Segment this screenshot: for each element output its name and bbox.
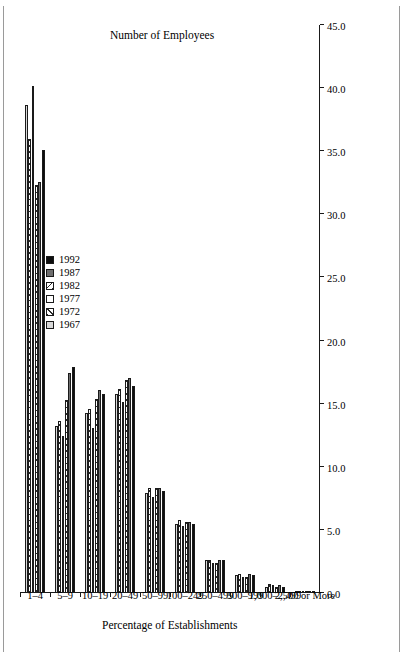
bar-1967-5-9 bbox=[54, 426, 57, 593]
bar-1982-250-499 bbox=[214, 563, 217, 593]
legend-item-1987: 1987 bbox=[46, 267, 80, 278]
value-tick-label: 5.0 bbox=[327, 526, 340, 537]
bar-1967-50-99 bbox=[144, 493, 147, 593]
category-tick-label: 50–99 bbox=[141, 590, 167, 601]
category-tick-label: 5–9 bbox=[57, 590, 73, 601]
bar-1967-10-19 bbox=[84, 413, 87, 593]
value-tick-label: 10.0 bbox=[327, 463, 345, 474]
value-tick bbox=[320, 150, 324, 151]
bar-1992-50-99 bbox=[161, 491, 164, 593]
category-tick bbox=[140, 593, 141, 597]
bar-1987-50-99 bbox=[158, 488, 161, 593]
page-border-right bbox=[399, 6, 400, 652]
legend-item-1992: 1992 bbox=[46, 254, 80, 265]
bar-1972-5-9 bbox=[58, 421, 61, 593]
bar-1977-20-49 bbox=[121, 402, 124, 593]
bar-group bbox=[204, 25, 224, 593]
bar-group bbox=[84, 25, 104, 593]
bar-1977-100-249 bbox=[181, 526, 184, 593]
legend-label: 1987 bbox=[59, 267, 80, 278]
bar-1972-10-19 bbox=[88, 409, 91, 593]
light-hatch-swatch bbox=[46, 282, 54, 290]
bar-1987-1-4 bbox=[38, 182, 41, 593]
value-tick-label: 15.0 bbox=[327, 400, 345, 411]
bar-group bbox=[144, 25, 164, 593]
category-tick-label: 20–49 bbox=[111, 590, 137, 601]
bar-1967-1-4 bbox=[24, 105, 27, 593]
bar-1992-20-49 bbox=[131, 386, 134, 593]
bar-group bbox=[174, 25, 194, 593]
legend-label: 1977 bbox=[59, 293, 80, 304]
bar-1967-250-499 bbox=[204, 560, 207, 593]
value-axis-line bbox=[319, 25, 320, 593]
legend-label: 1992 bbox=[59, 254, 80, 265]
figure-page: 0.05.010.015.020.025.030.035.040.045.0 1… bbox=[0, 0, 403, 658]
bar-1987-250-499 bbox=[218, 560, 221, 593]
bar-1987-100-249 bbox=[188, 522, 191, 593]
category-tick-label: 10–19 bbox=[81, 590, 107, 601]
bar-1982-100-249 bbox=[184, 522, 187, 593]
value-tick bbox=[320, 529, 324, 530]
bar-1987-10-19 bbox=[98, 390, 101, 593]
value-tick bbox=[320, 24, 324, 25]
bar-1982-1-4 bbox=[34, 185, 37, 593]
value-tick-label: 25.0 bbox=[327, 273, 345, 284]
value-tick bbox=[320, 276, 324, 277]
value-axis-title: Percentage of Establishments bbox=[102, 619, 237, 631]
category-tick bbox=[20, 593, 21, 597]
bar-1977-10-19 bbox=[91, 428, 94, 593]
legend-item-1967: 1967 bbox=[46, 319, 80, 330]
bar-group bbox=[264, 25, 284, 593]
bar-group bbox=[114, 25, 134, 593]
legend-item-1972: 1972 bbox=[46, 306, 80, 317]
value-tick bbox=[320, 466, 324, 467]
bar-1992-100-249 bbox=[191, 524, 194, 593]
bar-1992-5-9 bbox=[71, 367, 74, 593]
value-tick bbox=[320, 87, 324, 88]
white-swatch bbox=[46, 295, 54, 303]
legend-item-1982: 1982 bbox=[46, 280, 80, 291]
legend-label: 1967 bbox=[59, 319, 80, 330]
bar-1977-5-9 bbox=[61, 437, 64, 594]
bar-1972-250-499 bbox=[208, 560, 211, 593]
legend-item-1977: 1977 bbox=[46, 293, 80, 304]
value-tick-label: 20.0 bbox=[327, 337, 345, 348]
legend-label: 1982 bbox=[59, 280, 80, 291]
bar-1972-1-4 bbox=[28, 139, 31, 593]
bar-1972-50-99 bbox=[148, 488, 151, 593]
value-tick-label: 30.0 bbox=[327, 210, 345, 221]
bar-1977-1-4 bbox=[31, 86, 34, 593]
bar-group bbox=[294, 25, 314, 593]
bar-1982-5-9 bbox=[64, 400, 67, 593]
bar-1967-20-49 bbox=[114, 394, 117, 593]
light-gray-swatch bbox=[46, 321, 54, 329]
bar-group bbox=[24, 25, 44, 593]
bar-1972-20-49 bbox=[118, 389, 121, 593]
value-tick bbox=[320, 213, 324, 214]
bar-1992-10-19 bbox=[101, 394, 104, 593]
bar-group bbox=[234, 25, 254, 593]
category-axis-title: Number of Employees bbox=[110, 29, 214, 41]
category-tick bbox=[80, 593, 81, 597]
page-border-left bbox=[3, 6, 4, 652]
bar-1967-100-249 bbox=[174, 524, 177, 593]
bar-1992-1-4 bbox=[41, 150, 44, 593]
category-tick-label: 1–4 bbox=[27, 590, 43, 601]
value-tick bbox=[320, 340, 324, 341]
black-swatch bbox=[46, 256, 54, 264]
gray-swatch bbox=[46, 269, 54, 277]
legend-label: 1972 bbox=[59, 306, 80, 317]
value-tick-label: 45.0 bbox=[327, 21, 345, 32]
dark-hatch-swatch bbox=[46, 308, 54, 316]
bar-1992-250-499 bbox=[221, 560, 224, 593]
bar-1987-5-9 bbox=[68, 373, 71, 593]
category-tick-label: 2,500 or More bbox=[274, 590, 334, 601]
bar-1982-50-99 bbox=[154, 488, 157, 593]
category-tick bbox=[50, 593, 51, 597]
value-tick-label: 40.0 bbox=[327, 84, 345, 95]
category-tick bbox=[110, 593, 111, 597]
bar-1972-100-249 bbox=[178, 520, 181, 593]
value-tick bbox=[320, 403, 324, 404]
value-tick-label: 35.0 bbox=[327, 147, 345, 158]
bar-1977-50-99 bbox=[151, 497, 154, 593]
